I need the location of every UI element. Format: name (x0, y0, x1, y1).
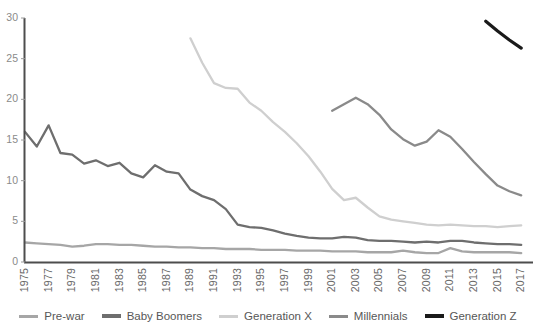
generation-line-chart: 1975197719791981198319851987198919911993… (0, 0, 536, 328)
y-tick-label: 25 (0, 53, 18, 64)
legend-item-generation-x[interactable]: Generation X (219, 310, 312, 322)
x-tick-label: 1985 (137, 268, 148, 292)
x-tick-label: 2001 (326, 268, 337, 292)
x-tick-label: 1991 (208, 268, 219, 292)
y-tick-label: 20 (0, 93, 18, 104)
series-line-generation-z (486, 21, 521, 48)
y-tick-label: 10 (0, 175, 18, 186)
legend-swatch-icon (102, 314, 121, 318)
series-group (25, 21, 521, 253)
legend-swatch-icon (219, 315, 238, 318)
legend-swatch-icon (425, 314, 444, 318)
x-tick-label: 1983 (114, 268, 125, 292)
x-tick-label: 1987 (161, 268, 172, 292)
x-tick-label: 2017 (515, 268, 526, 292)
x-tick-label: 1989 (184, 268, 195, 292)
series-line-generation-x (190, 38, 521, 227)
legend-label: Pre-war (44, 310, 84, 322)
series-line-millennials (332, 98, 521, 196)
y-tick-label: 30 (0, 12, 18, 23)
y-tick-label: 5 (0, 215, 18, 226)
legend-label: Baby Boomers (127, 310, 202, 322)
chart-legend: Pre-warBaby BoomersGeneration XMillennia… (0, 306, 536, 326)
legend-item-pre-war[interactable]: Pre-war (19, 310, 84, 322)
legend-label: Millennials (354, 310, 408, 322)
x-tick-label: 2007 (397, 268, 408, 292)
series-line-baby-boomers (25, 125, 521, 245)
x-tick-label: 1999 (303, 268, 314, 292)
legend-label: Generation X (244, 310, 312, 322)
legend-item-baby-boomers[interactable]: Baby Boomers (102, 310, 202, 322)
x-tick-label: 2009 (421, 268, 432, 292)
x-tick-label: 1977 (43, 268, 54, 292)
legend-label: Generation Z (450, 310, 517, 322)
x-tick-label: 1995 (255, 268, 266, 292)
x-tick-label: 1993 (232, 268, 243, 292)
x-tick-label: 2005 (373, 268, 384, 292)
x-tick-label: 1997 (279, 268, 290, 292)
y-tick-label: 15 (0, 134, 18, 145)
legend-item-generation-z[interactable]: Generation Z (425, 310, 517, 322)
plot-area (0, 0, 536, 328)
x-tick-label: 2013 (468, 268, 479, 292)
x-tick-label: 1981 (90, 268, 101, 292)
x-tick-label: 2015 (492, 268, 503, 292)
x-tick-label: 1975 (19, 268, 30, 292)
x-tick-label: 2003 (350, 268, 361, 292)
y-tick-label: 0 (0, 256, 18, 267)
series-line-pre-war (25, 242, 521, 253)
legend-swatch-icon (19, 315, 38, 318)
legend-swatch-icon (329, 315, 348, 318)
legend-item-millennials[interactable]: Millennials (329, 310, 408, 322)
x-tick-label: 1979 (66, 268, 77, 292)
x-tick-label: 2011 (444, 268, 455, 291)
